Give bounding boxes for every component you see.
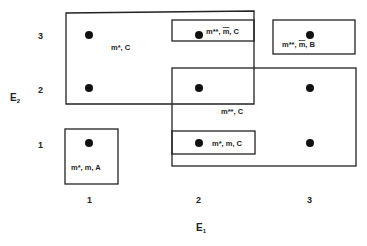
region-label-m-2star-mbar-b: m**, m, B bbox=[282, 40, 316, 49]
x-tick-1: 1 bbox=[87, 195, 92, 205]
point-e1-3-e2-3 bbox=[306, 31, 314, 39]
y-tick-1: 1 bbox=[38, 140, 43, 150]
y-axis-label-subscript: 2 bbox=[17, 98, 21, 104]
region-box-m-2star-c bbox=[172, 68, 356, 166]
label-prefix: m**, bbox=[206, 27, 223, 36]
x-tick-3: 3 bbox=[307, 195, 312, 205]
region-label-m-star-c: m*, C bbox=[111, 43, 131, 52]
point-e1-2-e2-1 bbox=[195, 139, 203, 147]
region-label-m-2star-mbar-c: m**, m, C bbox=[206, 27, 240, 36]
region-label-m-2star-c: m**, C bbox=[221, 107, 244, 116]
region-label-m-star-m-c: m*, m, C bbox=[212, 139, 243, 148]
y-axis-label: E2 bbox=[10, 92, 21, 104]
region-box-m-star-c bbox=[66, 11, 254, 104]
point-e1-3-e2-1 bbox=[306, 139, 314, 147]
point-e1-1-e2-1 bbox=[85, 139, 93, 147]
x-axis-label: E1 bbox=[196, 222, 207, 234]
point-e1-1-e2-3 bbox=[85, 31, 93, 39]
x-tick-2: 2 bbox=[196, 195, 201, 205]
label-suffix: , C bbox=[229, 27, 239, 36]
label-prefix: m**, bbox=[282, 40, 299, 49]
point-e1-2-e2-2 bbox=[195, 84, 203, 92]
x-axis-label-subscript: 1 bbox=[203, 228, 207, 234]
y-tick-3: 3 bbox=[38, 31, 43, 41]
region-label-m-star-m-a: m*, m, A bbox=[71, 163, 101, 172]
point-e1-3-e2-2 bbox=[306, 84, 314, 92]
diagram-canvas: m*, C m**, m, C m**, m, B m**, C m*, m, … bbox=[0, 0, 367, 246]
label-suffix: , B bbox=[305, 40, 315, 49]
point-e1-2-e2-3 bbox=[195, 31, 203, 39]
y-tick-2: 2 bbox=[38, 85, 43, 95]
region-box-m-star-m-a bbox=[65, 129, 118, 184]
point-e1-1-e2-2 bbox=[85, 84, 93, 92]
